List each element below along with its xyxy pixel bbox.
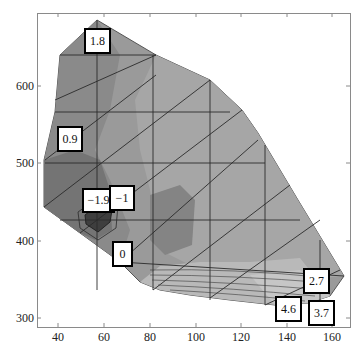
y-tick-label: 400 [16,234,34,248]
contour-label: 0.9 [57,126,83,152]
y-tick-label: 600 [16,79,34,93]
y-tick-label: 500 [16,156,34,170]
contour-label: −1 [109,185,135,211]
contour-label: 1.8 [84,28,111,54]
x-tick-label: 160 [323,330,341,344]
contour-plot: 600 500 400 300 40 60 80 100 120 140 160 [0,0,361,360]
x-tick-label: 100 [187,330,205,344]
contour-label: 3.7 [308,300,335,326]
x-tick-label: 140 [278,330,296,344]
x-tick-label: 40 [52,330,64,344]
y-tick-label: 300 [16,311,34,325]
x-tick-label: 80 [144,330,156,344]
contour-label: 4.6 [275,296,302,322]
x-tick-label: 60 [98,330,110,344]
contour-label: 0 [112,241,133,267]
contour-label: 2.7 [303,268,330,294]
x-tick-label: 120 [232,330,250,344]
